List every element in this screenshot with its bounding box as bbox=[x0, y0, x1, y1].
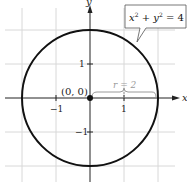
tick-label-x-1: 1 bbox=[121, 104, 127, 114]
x-axis-arrow-icon bbox=[172, 96, 180, 101]
tick-label-y-1: 1 bbox=[79, 59, 85, 69]
circle-graph: x y −1 1 1 −1 (0, 0) r = 2 x2 + y2 = 4 bbox=[0, 0, 187, 182]
radius-label: r = 2 bbox=[113, 80, 137, 90]
tick-label-x-neg1: −1 bbox=[50, 104, 63, 114]
tick-label-y-neg1: −1 bbox=[75, 127, 88, 137]
x-axis-label: x bbox=[182, 92, 187, 103]
origin-point bbox=[87, 95, 93, 101]
y-axis-label: y bbox=[85, 0, 92, 7]
origin-label: (0, 0) bbox=[61, 86, 88, 97]
